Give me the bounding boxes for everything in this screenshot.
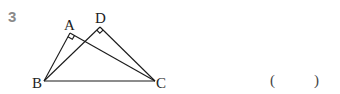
answer-paren-open: (	[270, 72, 275, 89]
segment-ac	[70, 33, 155, 81]
geometry-diagram: A B C D	[0, 0, 340, 94]
label-d: D	[95, 10, 106, 26]
segment-bd	[44, 27, 100, 81]
label-b: B	[32, 75, 42, 91]
answer-paren-close: )	[314, 72, 319, 89]
right-angle-mark-d	[97, 30, 103, 33]
segment-ab	[44, 33, 70, 81]
label-c: C	[156, 75, 166, 91]
label-a: A	[64, 17, 75, 33]
